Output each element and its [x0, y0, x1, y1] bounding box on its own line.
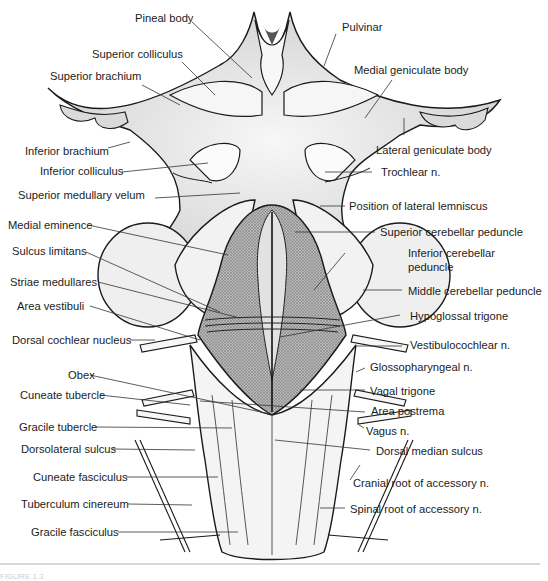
label-dorsal-cochlear-nucleus: Dorsal cochlear nucleus	[12, 334, 131, 347]
label-glossopharyngeal-n: Glossopharyngeal n.	[370, 361, 473, 374]
label-pineal-body: Pineal body	[135, 12, 193, 25]
label-hypoglossal-trigone: Hypoglossal trigone	[410, 310, 508, 323]
label-dorsolateral-sulcus: Dorsolateral sulcus	[21, 443, 116, 456]
label-obex: Obex	[68, 369, 95, 382]
label-gracile-tubercle: Gracile tubercle	[19, 421, 97, 434]
label-superior-cerebellar-peduncle: Superior cerebellar peduncle	[380, 226, 523, 239]
label-cuneate-fasciculus: Cuneate fasciculus	[33, 471, 128, 484]
label-vagal-trigone: Vagal trigone	[370, 385, 435, 398]
label-tuberculum-cinereum: Tuberculum cinereum	[21, 498, 129, 511]
label-inferior-cerebellar-peduncle-line1: Inferior cerebellar	[408, 247, 495, 260]
label-superior-brachium: Superior brachium	[50, 70, 141, 83]
label-pulvinar: Pulvinar	[342, 21, 382, 34]
caption-divider	[0, 563, 540, 565]
label-inferior-brachium: Inferior brachium	[25, 145, 109, 158]
figure-caption: FIGURE 1.3	[0, 572, 44, 581]
label-sulcus-limitans: Sulcus limitans	[12, 245, 87, 258]
label-superior-medullary-velum: Superior medullary velum	[18, 189, 145, 202]
label-inferior-cerebellar-peduncle-line2: peduncle	[408, 261, 453, 274]
label-vestibulocochlear-n: Vestibulocochlear n.	[410, 339, 510, 352]
label-medial-geniculate-body: Medial geniculate body	[354, 64, 468, 77]
label-gracile-fasciculus: Gracile fasciculus	[31, 526, 119, 539]
label-striae-medullares: Striae medullares	[10, 276, 97, 289]
label-spinal-root-of-accessory-n: Spinal root of accessory n.	[350, 503, 482, 516]
label-position-of-lateral-lemniscus: Position of lateral lemniscus	[349, 200, 488, 213]
label-superior-colliculus: Superior colliculus	[92, 48, 183, 61]
label-cuneate-tubercle: Cuneate tubercle	[20, 389, 105, 402]
label-inferior-colliculus: Inferior colliculus	[40, 165, 123, 178]
label-cranial-root-of-accessory-n: Cranial root of accessory n.	[353, 477, 489, 490]
label-dorsal-median-sulcus: Dorsal median sulcus	[376, 445, 483, 458]
label-middle-cerebellar-peduncle: Middle cerebellar peduncle	[408, 285, 542, 298]
label-area-vestibuli: Area vestibuli	[17, 300, 84, 313]
label-area-postrema: Area postrema	[371, 405, 444, 418]
label-medial-eminence: Medial eminence	[8, 219, 93, 232]
label-vagus-n: Vagus n.	[366, 425, 409, 438]
label-trochlear-n: Trochlear n.	[381, 166, 440, 179]
label-lateral-geniculate-body: Lateral geniculate body	[376, 144, 492, 157]
